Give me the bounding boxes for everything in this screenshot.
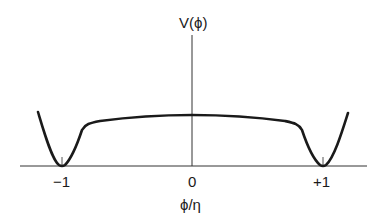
x-tick-label-plus-one: +1 [313, 174, 330, 189]
y-axis-label: V(ϕ) [179, 15, 207, 30]
x-axis-label: ϕ/η [180, 197, 201, 212]
x-tick-label-zero: 0 [188, 174, 196, 189]
potential-curve [38, 112, 348, 166]
x-tick-label-minus-one: −1 [53, 174, 70, 189]
